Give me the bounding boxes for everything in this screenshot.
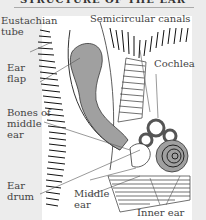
- skin-hatching-top: [110, 28, 188, 58]
- label-bones-of-middle-ear: Bones of middle ear: [7, 107, 51, 140]
- label-ear-drum: Ear drum: [7, 180, 34, 202]
- cochlea-spiral: [156, 140, 188, 172]
- label-cochlea: Cochlea: [154, 58, 195, 69]
- label-semicircular-canals: Semicircular canals: [90, 13, 190, 24]
- label-inner-ear: Inner ear: [137, 207, 184, 218]
- label-ear-flap: Ear flap: [7, 62, 26, 84]
- middle-ear-bones: [130, 144, 150, 167]
- hatched-bone-upper: [118, 58, 146, 122]
- ear-flap-shape: [70, 43, 128, 150]
- label-eustachian-tube: Eustachian tube: [1, 15, 58, 37]
- label-middle-ear: Middle ear: [74, 188, 109, 210]
